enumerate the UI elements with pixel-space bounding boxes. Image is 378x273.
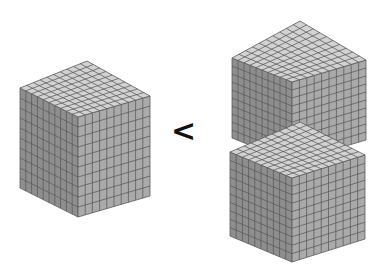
place-value-comparison-figure: < one thousand-cube two stacked thousand… xyxy=(0,0,378,273)
less-than-symbol: < xyxy=(171,116,195,146)
